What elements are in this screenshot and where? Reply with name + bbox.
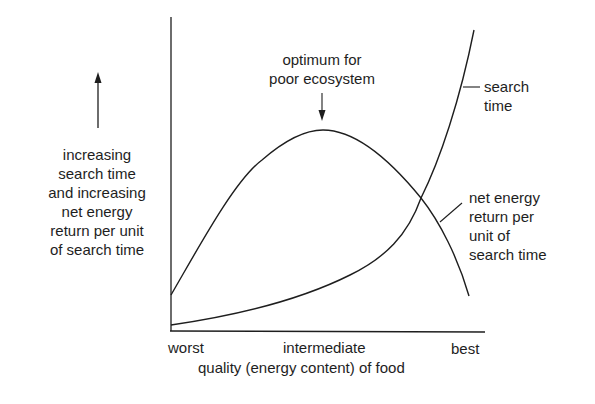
search-time-label: search time: [484, 77, 529, 115]
y-axis-label-line: search time: [22, 164, 172, 183]
net-energy-label-line: return per: [469, 207, 547, 226]
y-axis-label-line: increasing: [22, 145, 172, 164]
y-axis-label-line: and increasing: [22, 183, 172, 202]
annotation-line: poor ecosystem: [247, 69, 397, 88]
up-arrow-icon: [95, 72, 102, 128]
x-tick-worst: worst: [168, 338, 204, 357]
search-time-label-line: search: [484, 77, 529, 96]
annotation-line: optimum for: [247, 50, 397, 69]
net-energy-leader: [440, 203, 462, 222]
net-energy-label-line: net energy: [469, 188, 547, 207]
y-axis-label-line: net energy: [22, 202, 172, 221]
x-tick-intermediate: intermediate: [283, 338, 366, 357]
optimum-annotation: optimum for poor ecosystem: [247, 50, 397, 88]
x-tick-best: best: [451, 339, 479, 358]
net-energy-label-line: search time: [469, 245, 547, 264]
net-energy-label: net energy return per unit of search tim…: [469, 188, 547, 264]
y-axis-label-line: return per unit: [22, 221, 172, 240]
down-arrow-icon: [319, 93, 326, 121]
net-energy-label-line: unit of: [469, 226, 547, 245]
y-axis-label-line: of search time: [22, 240, 172, 259]
y-axis-label: increasing search time and increasing ne…: [22, 145, 172, 259]
search-time-label-line: time: [484, 96, 529, 115]
net-energy-curve: [171, 130, 469, 296]
x-axis-title: quality (energy content) of food: [198, 358, 405, 377]
x-axis: [170, 331, 485, 332]
